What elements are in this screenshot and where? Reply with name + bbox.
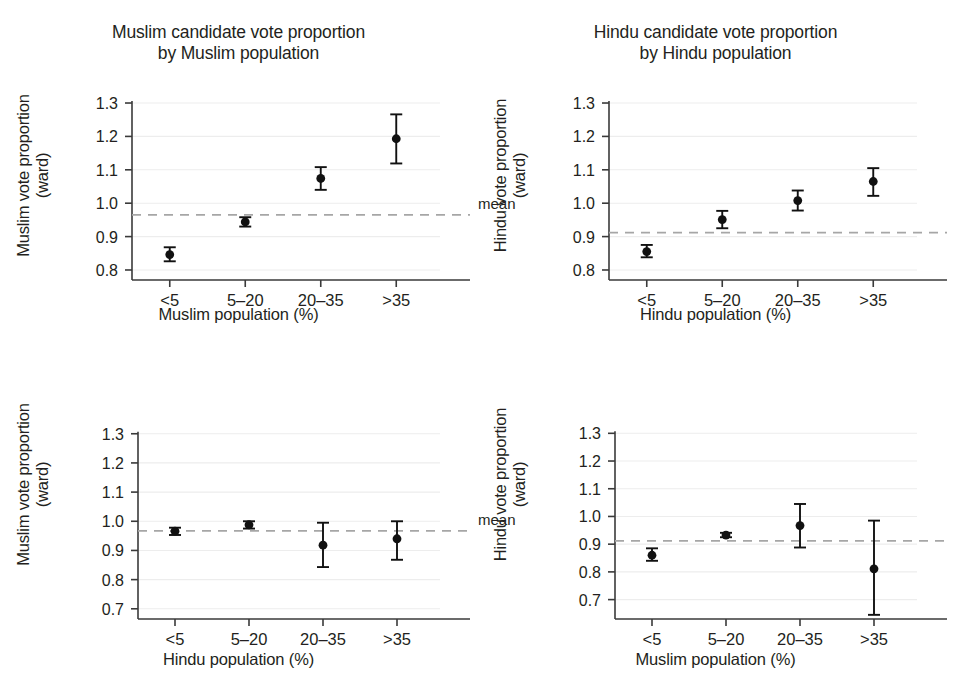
x-tick-label: <5 [643, 630, 662, 648]
y-tick-label: 0.9 [579, 536, 601, 553]
data-point-group [239, 217, 251, 226]
plot-area: 0.70.80.91.01.11.21.3<55–2020–35>35mean [0, 350, 477, 699]
y-tick-label: 1.3 [579, 425, 601, 442]
y-tick-label: 1.3 [96, 95, 118, 112]
data-point-group [792, 191, 804, 211]
x-tick-label: 5–20 [708, 630, 745, 648]
x-axis-label: Muslim population (%) [477, 650, 954, 669]
data-point-marker [870, 564, 879, 573]
data-point-marker [642, 247, 651, 256]
y-tick-label: 1.3 [102, 426, 124, 443]
y-tick-label: 0.7 [579, 592, 601, 609]
panel-hindu-by-muslim: Hindu candidate vote proportion by Musli… [477, 350, 954, 699]
y-tick-label: 1.0 [102, 513, 124, 530]
data-point-marker [869, 177, 878, 186]
x-tick-label: >35 [860, 630, 888, 648]
data-point-group [646, 548, 658, 560]
data-point-marker [392, 134, 401, 143]
data-point-marker [718, 215, 727, 224]
data-point-group [169, 527, 181, 536]
data-point-group [315, 167, 327, 190]
data-point-group [391, 521, 403, 560]
panel-muslim-by-muslim: Muslim candidate vote proportion by Musl… [0, 0, 477, 350]
y-tick-label: 1.1 [573, 162, 595, 179]
data-point-marker [171, 527, 180, 536]
figure-grid: Muslim candidate vote proportion by Musl… [0, 0, 954, 699]
x-tick-label: 20–35 [300, 630, 346, 648]
plot-area: 0.80.91.01.11.21.3<55–2020–35>35mean [477, 0, 954, 350]
data-point-group [868, 521, 880, 615]
y-tick-label: 0.8 [579, 564, 601, 581]
x-tick-label: 5–20 [231, 630, 268, 648]
data-point-group [867, 168, 879, 196]
y-tick-label: 1.3 [573, 95, 595, 112]
y-tick-label: 1.2 [96, 128, 118, 145]
data-point-group [317, 523, 329, 567]
plot-area: 0.80.91.01.11.21.3<55–2020–35>35mean [0, 0, 477, 350]
x-axis-label: Muslim population (%) [0, 305, 477, 324]
data-point-group [720, 531, 732, 540]
data-point-marker [165, 250, 174, 259]
plot-area: 0.70.80.91.01.11.21.3<55–2020–35>35mean [477, 350, 954, 699]
y-tick-label: 1.2 [579, 453, 601, 470]
data-point-marker [722, 531, 731, 540]
y-tick-label: 0.9 [96, 229, 118, 246]
y-tick-label: 1.0 [573, 195, 595, 212]
x-tick-label: <5 [166, 630, 185, 648]
x-tick-label: 20–35 [777, 630, 823, 648]
data-point-marker [245, 520, 254, 529]
y-tick-label: 1.1 [102, 484, 124, 501]
data-point-group [164, 247, 176, 261]
y-tick-label: 1.2 [102, 455, 124, 472]
x-axis-label: Hindu population (%) [0, 650, 477, 669]
data-point-marker [793, 196, 802, 205]
y-tick-label: 1.1 [579, 481, 601, 498]
y-tick-label: 1.0 [96, 195, 118, 212]
data-point-group [641, 245, 653, 257]
y-tick-label: 0.9 [573, 229, 595, 246]
data-point-marker [393, 534, 402, 543]
x-axis-label: Hindu population (%) [477, 305, 954, 324]
data-point-marker [316, 174, 325, 183]
data-point-marker [796, 521, 805, 530]
y-tick-label: 1.2 [573, 128, 595, 145]
y-tick-label: 0.8 [102, 572, 124, 589]
data-point-group [243, 520, 255, 529]
data-point-marker [648, 551, 657, 560]
y-tick-label: 0.7 [102, 601, 124, 618]
data-point-group [716, 211, 728, 228]
data-point-group [390, 114, 402, 163]
y-tick-label: 1.1 [96, 162, 118, 179]
data-point-marker [241, 217, 250, 226]
panel-hindu-by-hindu: Hindu candidate vote proportion by Hindu… [477, 0, 954, 350]
x-tick-label: >35 [383, 630, 411, 648]
data-point-marker [319, 541, 328, 550]
panel-muslim-by-hindu: Muslim candidate vote proportion by Hind… [0, 350, 477, 699]
y-tick-label: 0.8 [573, 262, 595, 279]
y-tick-label: 0.9 [102, 542, 124, 559]
y-tick-label: 1.0 [579, 508, 601, 525]
y-tick-label: 0.8 [96, 262, 118, 279]
